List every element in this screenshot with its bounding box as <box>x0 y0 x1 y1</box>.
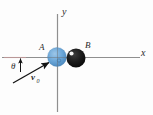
velocity-subscript-label: 0 <box>37 78 40 84</box>
angle-label: θ <box>11 61 16 71</box>
figure-canvas: y x A B θ v 0 <box>0 0 153 115</box>
ball-a-label: A <box>38 42 45 52</box>
ball-b <box>67 49 86 68</box>
physics-figure: y x A B θ v 0 <box>0 0 153 115</box>
ball-b-label: B <box>85 40 91 50</box>
velocity-label-group: v 0 <box>31 72 40 84</box>
y-axis-label: y <box>61 6 67 17</box>
ball-b-highlight <box>69 51 73 55</box>
x-axis-label: x <box>140 47 146 58</box>
velocity-label: v <box>31 72 36 82</box>
